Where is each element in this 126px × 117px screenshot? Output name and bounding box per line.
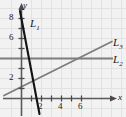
x-tick-label-4: 4 <box>58 102 63 111</box>
series-label-l2: L2 <box>113 54 123 68</box>
coordinate-plot <box>0 0 126 117</box>
x-tick-label-2: 2 <box>38 102 43 111</box>
series-label-l2-sub: 2 <box>119 60 123 68</box>
graph-figure: 8 6 2 2 4 6 y x L1 L3 L2 <box>0 0 126 117</box>
series-label-l3: L3 <box>113 37 123 51</box>
x-axis-name: x <box>118 93 122 102</box>
series-label-l1: L1 <box>30 18 40 32</box>
x-tick-label-6: 6 <box>78 102 83 111</box>
x-axis-arrow <box>110 95 117 101</box>
y-tick-label-8: 8 <box>9 13 14 22</box>
series-label-l3-sub: 3 <box>119 43 123 51</box>
y-tick-label-2: 2 <box>9 73 14 82</box>
y-tick-label-6: 6 <box>9 33 14 42</box>
series-label-l1-sub: 1 <box>36 24 40 32</box>
y-axis-name: y <box>23 1 27 10</box>
